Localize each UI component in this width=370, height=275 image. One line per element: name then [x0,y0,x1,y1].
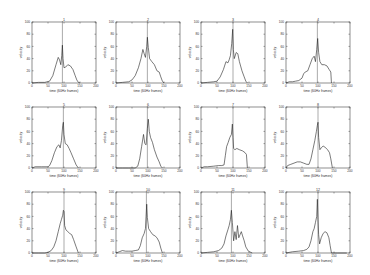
y-tick-label: 60 [195,130,199,134]
y-axis-label: velocity [188,132,192,144]
y-tick-label: 40 [195,142,199,146]
y-tick-label: 80 [110,202,114,206]
y-tick-label: 80 [195,202,199,206]
x-tick-label: 100 [230,254,236,258]
x-tick-label: 50 [46,254,50,258]
y-tick-label: 40 [26,57,30,61]
y-tick-label: 80 [280,32,284,36]
x-tick-label: 200 [177,169,183,173]
velocity-series [201,210,252,253]
y-axis-label: velocity [103,132,107,144]
y-axis-label: velocity [19,217,23,229]
x-tick-label: 50 [300,254,304,258]
chart-panel-3: 0204060801000501001502003time (60Hz fram… [188,18,268,93]
x-tick-label: 100 [145,84,151,88]
y-tick-label: 80 [26,202,30,206]
x-tick-label: 200 [93,254,99,258]
x-tick-label: 200 [177,254,183,258]
velocity-series [286,199,347,253]
x-tick-label: 0 [115,169,117,173]
y-tick-label: 40 [195,227,199,231]
chart-panel-8: 0204060801000501001502008time (60Hz fram… [273,103,353,178]
x-tick-label: 200 [347,169,353,173]
x-axis-label: time (60Hz frames) [219,174,248,178]
chart-panel-5: 0204060801000501001502005time (60Hz fram… [19,103,99,178]
y-tick-label: 20 [280,239,284,243]
x-tick-label: 150 [161,254,167,258]
panel-title: 11 [231,188,235,192]
y-tick-label: 80 [195,117,199,121]
y-tick-label: 0 [112,251,114,255]
y-axis-label: velocity [273,217,277,229]
figure-grid: 0204060801000501001502001time (60Hz fram… [0,0,370,275]
y-tick-label: 40 [195,57,199,61]
y-tick-label: 20 [26,154,30,158]
y-tick-label: 0 [28,251,30,255]
panel-title: 8 [317,103,319,107]
x-axis-label: time (60Hz frames) [304,89,333,93]
y-tick-label: 80 [280,117,284,121]
y-tick-label: 60 [26,130,30,134]
x-axis-label: time (60Hz frames) [50,174,79,178]
x-tick-label: 50 [130,169,134,173]
x-tick-label: 0 [31,84,33,88]
y-tick-label: 20 [26,69,30,73]
axes-box [286,22,350,83]
axes-box [116,22,180,83]
x-tick-label: 0 [31,254,33,258]
y-tick-label: 20 [195,239,199,243]
y-tick-label: 80 [195,32,199,36]
velocity-series [116,204,162,253]
x-tick-label: 50 [215,169,219,173]
panel-title: 4 [317,18,319,22]
y-tick-label: 80 [280,202,284,206]
velocity-series [201,29,247,83]
x-tick-label: 150 [246,254,252,258]
x-tick-label: 200 [262,254,268,258]
chart-panel-9: 0204060801000501001502009time (60Hz fram… [19,188,99,263]
x-axis-label: time (60Hz frames) [50,259,79,263]
x-tick-label: 50 [215,84,219,88]
x-tick-label: 0 [31,169,33,173]
panel-title: 12 [316,188,320,192]
chart-panel-6: 0204060801000501001502006time (60Hz fram… [103,103,183,178]
y-tick-label: 100 [109,20,115,24]
y-tick-label: 80 [110,32,114,36]
x-tick-label: 100 [315,254,321,258]
x-tick-label: 50 [130,254,134,258]
y-axis-label: velocity [19,47,23,59]
y-tick-label: 40 [110,227,114,231]
y-tick-label: 60 [195,45,199,49]
y-tick-label: 60 [195,215,199,219]
x-tick-label: 200 [93,169,99,173]
panel-title: 1 [63,18,65,22]
x-tick-label: 100 [145,254,151,258]
x-tick-label: 0 [200,169,202,173]
chart-panel-1: 0204060801000501001502001time (60Hz fram… [19,18,99,93]
y-tick-label: 60 [26,215,30,219]
chart-panel-4: 0204060801000501001502004time (60Hz fram… [273,18,353,93]
y-tick-label: 0 [28,166,30,170]
axes-box [32,22,96,83]
y-tick-label: 100 [25,190,31,194]
y-tick-label: 20 [280,69,284,73]
y-tick-label: 40 [280,57,284,61]
x-tick-label: 200 [262,84,268,88]
panel-title: 7 [232,103,234,107]
velocity-series [32,210,78,253]
y-tick-label: 100 [109,105,115,109]
x-tick-label: 100 [230,169,236,173]
y-tick-label: 100 [194,105,200,109]
x-tick-label: 150 [331,254,337,258]
x-tick-label: 50 [300,84,304,88]
y-tick-label: 100 [194,190,200,194]
y-tick-label: 100 [194,20,200,24]
y-tick-label: 100 [279,105,285,109]
x-tick-label: 50 [46,169,50,173]
x-tick-label: 150 [77,169,83,173]
chart-panel-12: 02040608010005010015020012time (60Hz fra… [273,188,353,263]
x-tick-label: 0 [200,254,202,258]
x-axis-label: time (60Hz frames) [50,89,79,93]
x-tick-label: 200 [262,169,268,173]
y-tick-label: 20 [26,239,30,243]
